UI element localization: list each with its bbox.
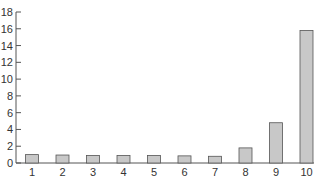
bar-10 [300,30,313,163]
y-tick-label: 12 [1,56,13,68]
bar-7 [209,156,222,163]
y-axis: 024681012141618 [1,6,21,169]
x-tick-label: 5 [151,166,157,178]
y-tick-label: 18 [1,6,13,18]
x-tick-label: 1 [29,166,35,178]
x-tick-label: 8 [242,166,248,178]
y-tick-label: 2 [7,140,13,152]
bars [26,30,314,163]
bar-3 [87,155,100,163]
bar-chart: 024681012141618 12345678910 [0,0,314,181]
y-tick-label: 0 [7,157,13,169]
y-tick-label: 16 [1,23,13,35]
x-tick-label: 6 [181,166,187,178]
bar-9 [270,123,283,163]
x-axis: 12345678910 [16,163,314,178]
y-tick-label: 6 [7,107,13,119]
x-tick-label: 7 [212,166,218,178]
x-tick-label: 9 [273,166,279,178]
x-tick-label: 3 [90,166,96,178]
bar-2 [56,155,69,163]
bar-8 [239,148,252,163]
y-tick-label: 14 [1,40,13,52]
y-tick-label: 10 [1,73,13,85]
bar-4 [117,155,130,163]
bar-5 [148,155,161,163]
bar-6 [178,156,191,163]
y-tick-label: 8 [7,90,13,102]
x-tick-label: 4 [120,166,126,178]
x-tick-label: 2 [59,166,65,178]
x-tick-label: 10 [300,166,312,178]
bar-1 [26,155,39,163]
y-tick-label: 4 [7,123,13,135]
